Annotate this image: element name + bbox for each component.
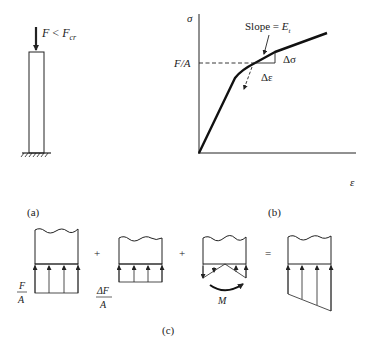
stress-strain-curve (199, 33, 327, 153)
caption-a: (a) (27, 206, 40, 219)
caption-b: (b) (268, 206, 281, 219)
buckling-tangent-modulus-figure: F < Fcr (a) σ ε F/A Slope = Et Δσ Δε (0, 0, 370, 348)
plus-operator-2: + (179, 247, 185, 259)
term-bending-stress: M (203, 236, 246, 307)
panel-c: F A + ΔF A + M (17, 229, 331, 337)
term1-denominator: A (17, 294, 25, 305)
y-axis-label: σ (187, 12, 193, 24)
delta-epsilon-label: Δε (261, 71, 273, 83)
panel-a: F < Fcr (a) (21, 26, 77, 219)
term1-numerator: F (18, 280, 26, 291)
term-uniform-stress: F A (17, 229, 78, 305)
caption-c: (c) (162, 324, 175, 337)
x-axis-label: ε (350, 176, 355, 188)
moment-arrow-icon (210, 284, 243, 290)
equals-operator: = (265, 247, 271, 259)
panel-b: σ ε F/A Slope = Et Δσ Δε (b) (173, 12, 356, 219)
plus-operator-1: + (94, 247, 100, 259)
f-over-a-label: F/A (173, 57, 191, 69)
delta-sigma-label: Δσ (283, 53, 296, 65)
term-resultant-stress (288, 236, 331, 311)
term2-numerator: ΔF (96, 285, 110, 296)
term3-moment-label: M (217, 295, 227, 306)
slope-pointer-arrow-icon (264, 35, 269, 54)
slope-label: Slope = Et (245, 20, 292, 35)
unloading-arrow-icon (244, 67, 252, 89)
fixed-support-icon (21, 153, 51, 157)
term-incremental-stress: ΔF A (96, 237, 162, 310)
term2-denominator: A (99, 299, 107, 310)
column (29, 52, 44, 153)
load-label: F < Fcr (41, 26, 77, 42)
